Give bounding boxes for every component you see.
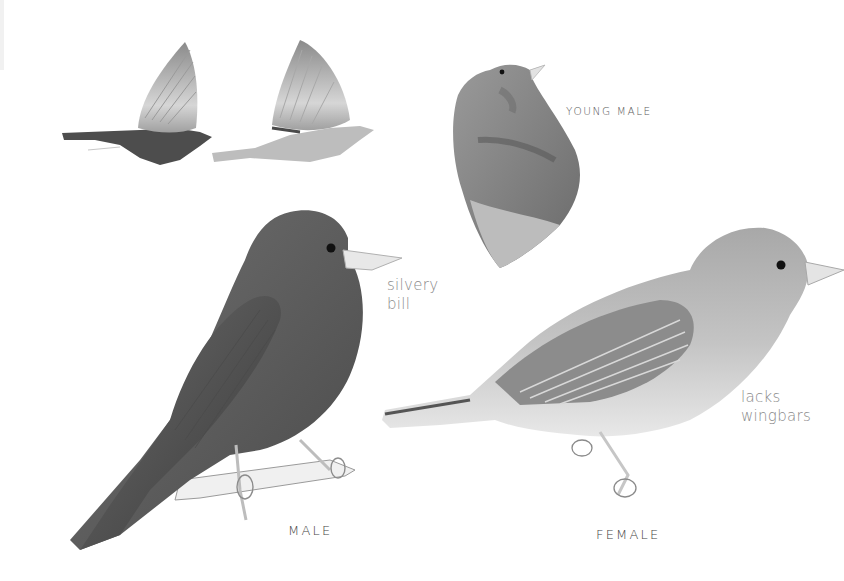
annotation-line: bill xyxy=(387,295,438,314)
annotation-line: lacks xyxy=(741,388,811,407)
annotation-line: silvery xyxy=(387,276,438,295)
young-male-figure xyxy=(453,65,580,268)
female-figure xyxy=(382,228,844,497)
label-female: FEMALE xyxy=(596,527,660,542)
male-figure xyxy=(70,210,402,550)
annotation-silvery-bill: silvery bill xyxy=(387,276,438,314)
flying-female-figure xyxy=(212,40,374,162)
label-young-male: YOUNG MALE xyxy=(566,105,652,117)
annotation-lacks-wingbars: lacks wingbars xyxy=(741,388,811,426)
flying-male-figure xyxy=(62,42,212,165)
annotation-line: wingbars xyxy=(741,407,811,426)
illustration-plate: YOUNG MALE silvery bill lacks wingbars M… xyxy=(0,0,844,581)
label-male: MALE xyxy=(288,523,332,538)
